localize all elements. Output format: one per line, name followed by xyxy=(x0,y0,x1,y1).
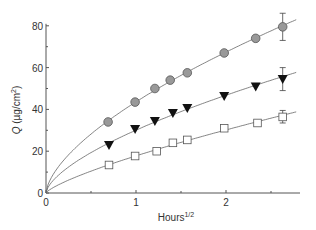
axes: 012020406080 xyxy=(32,21,300,208)
data-point xyxy=(104,141,114,150)
data-point xyxy=(153,147,161,155)
data-point xyxy=(254,119,262,127)
fit-curves xyxy=(46,20,296,193)
data-point xyxy=(182,104,192,113)
data-point xyxy=(104,118,113,127)
data-point xyxy=(278,23,287,32)
series-squares xyxy=(105,110,286,168)
series-triangles xyxy=(104,68,288,150)
data-point xyxy=(251,82,261,91)
data-point xyxy=(220,124,228,132)
data-point xyxy=(131,98,140,107)
y-tick-label: 60 xyxy=(32,63,44,74)
x-tick-label: 2 xyxy=(223,197,229,208)
data-point xyxy=(151,84,160,93)
data-point xyxy=(278,75,288,84)
data-points xyxy=(104,13,288,169)
data-point xyxy=(251,34,260,43)
y-tick-label: 0 xyxy=(37,188,43,199)
y-tick-label: 20 xyxy=(32,146,44,157)
data-point xyxy=(279,113,287,121)
x-tick-label: 0 xyxy=(43,197,49,208)
data-point xyxy=(169,139,177,147)
data-point xyxy=(105,161,113,169)
series-circles xyxy=(104,13,287,126)
chart: 012020406080 Q (µg/cm2) Hours1/2 xyxy=(0,0,316,230)
data-point xyxy=(219,92,229,101)
data-point xyxy=(220,49,229,58)
data-point xyxy=(184,136,192,144)
data-point xyxy=(131,152,139,160)
x-axis-label: Hours1/2 xyxy=(158,211,195,223)
data-point xyxy=(130,125,140,134)
data-point xyxy=(166,76,175,85)
x-tick-label: 1 xyxy=(133,197,139,208)
y-axis-label: Q (µg/cm2) xyxy=(10,86,22,135)
y-tick-label: 40 xyxy=(32,104,44,115)
data-point xyxy=(183,69,192,78)
y-tick-label: 80 xyxy=(32,21,44,32)
data-point xyxy=(150,117,160,126)
